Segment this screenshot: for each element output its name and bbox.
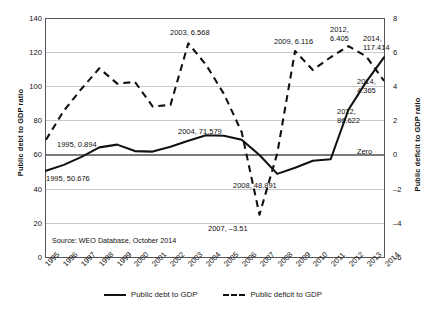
plot-area [45,18,385,258]
legend-swatch-solid-icon [104,294,126,296]
y-tick-right-4: 4 [393,82,419,91]
chart-figure: Public debt to GDP ratio Public deficit … [0,0,426,311]
y-tick-left-80: 80 [16,116,42,125]
y-tick-left-60: 60 [16,150,42,159]
legend-item-public-deficit[interactable]: Public deficit to GDP [223,290,322,299]
y-tick-left-140: 140 [16,14,42,23]
y-tick-left-40: 40 [16,185,42,194]
annotation-2012-debt: 2012, 86.622 [337,107,360,125]
y-tick-right-0: 0 [393,150,419,159]
legend-label-public-deficit: Public deficit to GDP [250,290,322,299]
y-tick-left-100: 100 [16,82,42,91]
annotation-1995-deficit: 1995, 0.894 [57,140,97,149]
source-note: Source: WEO Database, October 2014 [52,236,176,245]
annotation-2007: 2007, –3.51 [208,224,248,233]
y-tick-right-8: 8 [393,14,419,23]
y-tick-right-neg2: –2 [393,185,419,194]
chart-legend: Public debt to GDP Public deficit to GDP [0,290,426,299]
y-tick-left-0: 0 [16,253,42,262]
series-lines [46,19,384,257]
annotation-1995-debt: 1995, 50.676 [46,174,90,183]
zero-line-label: Zero [357,147,372,156]
series-line-public-debt [46,57,384,173]
annotation-2014-deficit: 2014, 4.365 [357,77,376,95]
legend-item-public-debt[interactable]: Public debt to GDP [104,290,197,299]
legend-label-public-debt: Public debt to GDP [131,290,197,299]
annotation-2008: 2008, 48.891 [233,181,277,190]
y-tick-right-2: 2 [393,116,419,125]
y-tick-left-120: 120 [16,48,42,57]
y-tick-right-neg4: –4 [393,219,419,228]
annotation-2003: 2003, 6.568 [170,28,210,37]
y-tick-right-6: 6 [393,48,419,57]
annotation-2009: 2009, 6.116 [274,37,313,46]
legend-swatch-dashed-icon [223,294,245,296]
annotation-2014-debt: 2014, 117.414 [363,34,390,52]
annotation-2004: 2004, 71.579 [178,127,222,136]
annotation-2012-deficit: 2012, 6.405 [330,25,349,43]
y-tick-left-20: 20 [16,219,42,228]
